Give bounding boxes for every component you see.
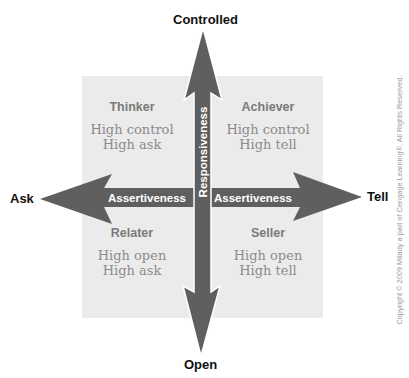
quadrant-text: High control High ask — [82, 122, 182, 152]
pole-open: Open — [184, 357, 217, 372]
quadrant-text: High open High tell — [218, 248, 318, 278]
quadrant-line: High ask — [82, 137, 182, 152]
quadrant-line: High open — [82, 248, 182, 263]
pole-controlled: Controlled — [173, 12, 238, 27]
quadrant-line: High control — [82, 122, 182, 137]
quadrant-title: Thinker — [82, 100, 182, 114]
quadrant-line: High tell — [218, 263, 318, 278]
quadrant-text: High control High tell — [218, 122, 318, 152]
pole-ask: Ask — [10, 191, 34, 206]
copyright-notice: Copyright © 2009 Milady a part of Cengag… — [395, 75, 404, 324]
assertiveness-label-left: Assertiveness — [108, 191, 186, 205]
quadrant-title: Relater — [82, 226, 182, 240]
quadrant-title: Seller — [218, 226, 318, 240]
quadrant-achiever: Achiever High control High tell — [218, 100, 318, 152]
quadrant-line: High tell — [218, 137, 318, 152]
quadrant-line: High open — [218, 248, 318, 263]
quadrant-seller: Seller High open High tell — [218, 226, 318, 278]
quadrant-text: High open High ask — [82, 248, 182, 278]
quadrant-title: Achiever — [218, 100, 318, 114]
quadrant-thinker: Thinker High control High ask — [82, 100, 182, 152]
assertiveness-label-right: Assertiveness — [214, 191, 292, 205]
responsiveness-label: Responsiveness — [197, 107, 209, 198]
pole-tell: Tell — [367, 189, 388, 204]
quadrant-line: High ask — [82, 263, 182, 278]
quadrant-relater: Relater High open High ask — [82, 226, 182, 278]
quadrant-line: High control — [218, 122, 318, 137]
